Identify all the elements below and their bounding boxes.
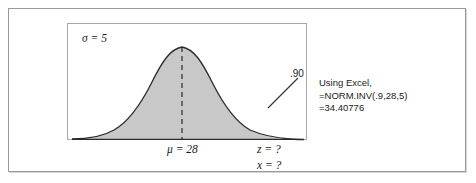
x-value-label: x = ? bbox=[257, 159, 281, 171]
z-value-label: z = ? bbox=[257, 143, 281, 155]
excel-formula-note: Using Excel, =NORM.INV(.9,28,5) =34.4077… bbox=[319, 77, 407, 115]
z-value-label-text: z = ? bbox=[257, 143, 281, 155]
excel-note-line-3: =34.40776 bbox=[319, 102, 407, 115]
shaded-area-path bbox=[72, 47, 278, 139]
mean-axis-label-text: μ = 28 bbox=[167, 143, 198, 155]
area-label-leader-line bbox=[266, 76, 300, 110]
sigma-annotation: σ = 5 bbox=[82, 32, 107, 44]
mean-axis-label: μ = 28 bbox=[167, 143, 198, 155]
normal-distribution-plot: σ = 5 .90 bbox=[67, 23, 307, 140]
figure-frame: σ = 5 .90 μ = 28 z = ? x = ? Using Excel… bbox=[8, 8, 466, 172]
excel-note-line-1: Using Excel, bbox=[319, 77, 407, 90]
excel-note-line-2: =NORM.INV(.9,28,5) bbox=[319, 90, 407, 103]
sigma-annotation-text: σ = 5 bbox=[82, 32, 107, 44]
x-value-label-text: x = ? bbox=[257, 159, 281, 171]
